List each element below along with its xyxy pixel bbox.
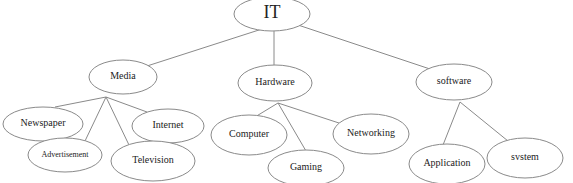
label-advertisement: Advertisement <box>41 150 89 159</box>
node-networking: Networking <box>333 114 409 154</box>
node-television: Television <box>111 141 195 181</box>
node-internet: Internet <box>132 109 204 143</box>
edge-media-advertisement <box>85 97 106 141</box>
label-television: Television <box>132 154 174 165</box>
node-advertisement: Advertisement <box>28 138 102 172</box>
node-computer: Computer <box>211 115 287 155</box>
label-media: Media <box>110 70 136 81</box>
edge-software-system <box>460 102 508 141</box>
label-computer: Computer <box>229 128 270 139</box>
label-networking: Networking <box>347 127 395 138</box>
label-application: Application <box>423 157 470 168</box>
edge-it-media <box>147 29 262 66</box>
node-system: svstem <box>487 138 563 178</box>
label-gaming: Gaming <box>290 161 322 172</box>
node-hardware: Hardware <box>238 65 312 101</box>
node-media: Media <box>89 60 157 94</box>
node-application: Application <box>409 144 485 183</box>
node-software: software <box>416 64 492 100</box>
node-it: IT <box>234 0 310 31</box>
node-gaming: Gaming <box>268 150 344 183</box>
edge-media-newspaper <box>55 97 106 107</box>
label-system: svstem <box>511 151 539 162</box>
nodes-layer: ITMediaHardwaresoftwareNewspaperAdvertis… <box>3 0 563 183</box>
edge-hardware-networking <box>278 103 342 124</box>
label-hardware: Hardware <box>255 76 295 87</box>
edge-software-application <box>443 102 460 145</box>
node-newspaper: Newspaper <box>3 107 83 141</box>
label-software: software <box>437 75 472 86</box>
label-newspaper: Newspaper <box>21 117 67 128</box>
it-tree-diagram: ITMediaHardwaresoftwareNewspaperAdvertis… <box>0 0 573 183</box>
label-it: IT <box>264 2 281 22</box>
label-internet: Internet <box>152 119 183 130</box>
edge-it-software <box>298 25 436 71</box>
